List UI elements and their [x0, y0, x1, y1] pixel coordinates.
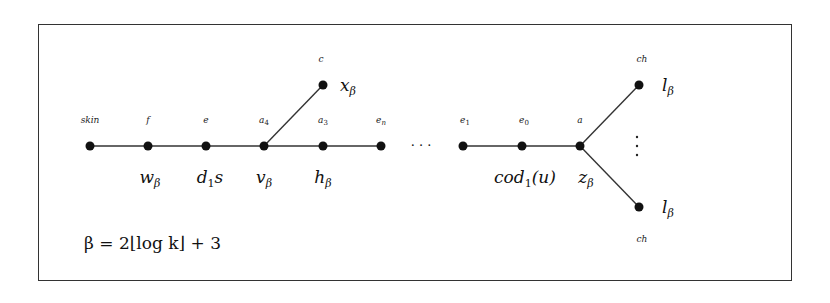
node-ch-top [635, 81, 644, 90]
node-a4 [260, 142, 269, 151]
node-e0 [518, 142, 527, 151]
label-l-beta-top: lβ [662, 75, 674, 98]
label-cod1u: cod1(u) [494, 167, 556, 190]
graph-diagram: · · · skin f e a4 a3 en e1 e0 a c ch ch … [0, 0, 830, 303]
beta-formula: β = 2⌊log k⌋ + 3 [84, 233, 221, 253]
node-skin [86, 142, 95, 151]
node-a3 [319, 142, 328, 151]
label-w-beta: wβ [140, 167, 161, 190]
label-a: a [577, 115, 582, 125]
label-skin: skin [81, 115, 100, 125]
edge-a4-c [264, 85, 323, 146]
label-e1: e1 [460, 115, 470, 127]
label-l-beta-bottom: lβ [662, 197, 674, 220]
horizontal-ellipsis: · · · [411, 138, 432, 153]
node-en [377, 142, 386, 151]
node-e [202, 142, 211, 151]
vertical-ellipsis [636, 136, 638, 156]
label-e0: e0 [519, 115, 529, 127]
edges [90, 85, 639, 207]
node-a [576, 142, 585, 151]
label-a4: a4 [259, 115, 269, 127]
label-ch-top: ch [637, 54, 648, 64]
node-ch-bottom [635, 203, 644, 212]
label-c: c [318, 54, 323, 64]
label-x-beta: xβ [340, 75, 356, 98]
label-z-beta: zβ [577, 167, 593, 190]
label-ch-bottom: ch [637, 234, 648, 244]
label-en: en [376, 115, 386, 127]
label-v-beta: vβ [256, 167, 272, 190]
edge-a-ch-top [580, 85, 639, 146]
label-h-beta: hβ [314, 167, 331, 190]
label-e: e [203, 115, 208, 125]
label-a3: a3 [318, 115, 328, 127]
label-d1s: d1s [197, 167, 224, 190]
node-e1 [459, 142, 468, 151]
label-f: f [145, 115, 151, 125]
node-f [144, 142, 153, 151]
node-c [319, 81, 328, 90]
